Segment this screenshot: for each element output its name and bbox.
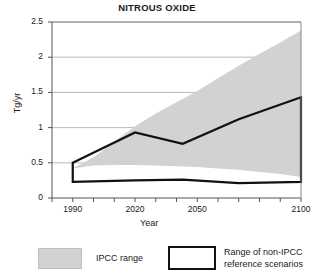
legend-swatch-non-ipcc-range	[168, 246, 216, 270]
x-tick-label: 2050	[177, 204, 217, 214]
legend-swatch-ipcc-range	[38, 248, 82, 269]
x-axis-ticks	[52, 198, 301, 202]
x-axis-label: Year	[140, 218, 158, 228]
legend-label-non-ipcc-line1: Range of non-IPCC	[224, 246, 314, 258]
y-axis-ticks	[48, 22, 52, 198]
legend-label-ipcc-range: IPCC range	[96, 253, 143, 263]
y-tick-label: 1.5	[19, 86, 43, 96]
legend-label-non-ipcc-range: Range of non-IPCC reference scenarios	[224, 246, 314, 270]
y-tick-label: 0.5	[19, 157, 43, 167]
y-tick-label: 2.5	[19, 16, 43, 26]
legend-label-non-ipcc-line2: reference scenarios	[224, 258, 314, 270]
chart-canvas	[0, 0, 314, 274]
y-tick-label: 0	[19, 192, 43, 202]
x-tick-label: 2020	[115, 204, 155, 214]
y-tick-label: 1	[19, 122, 43, 132]
x-tick-label: 2100	[281, 204, 314, 214]
y-tick-label: 2	[19, 51, 43, 61]
nitrous-oxide-chart-figure: NITROUS OXIDE Tg/yr Year 00.511.522.5 19…	[0, 0, 314, 274]
x-tick-label: 1990	[53, 204, 93, 214]
